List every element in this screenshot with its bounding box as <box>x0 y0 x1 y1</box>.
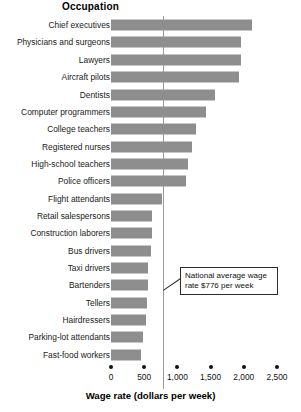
bar-row: Flight attendants <box>0 190 301 207</box>
bar <box>111 141 192 152</box>
category-label: Flight attendants <box>48 194 110 204</box>
category-label: Retail salespersons <box>37 211 110 221</box>
category-label: Bartenders <box>69 280 110 290</box>
bar <box>111 193 162 204</box>
category-label: Police officers <box>58 176 110 186</box>
category-label: High-school teachers <box>31 159 110 169</box>
bar <box>111 245 151 256</box>
category-label: Parking-lot attendants <box>29 332 110 342</box>
x-axis-tick-label: 0 <box>109 372 114 382</box>
category-label: Hairdressers <box>63 315 110 325</box>
bar-row: Construction laborers <box>0 225 301 242</box>
bar-row: Aircraft pilots <box>0 69 301 86</box>
category-label: Taxi drivers <box>68 263 110 273</box>
category-label: Computer programmers <box>21 107 110 117</box>
bar <box>111 280 148 291</box>
category-label: Aircraft pilots <box>62 72 110 82</box>
bar <box>111 158 188 169</box>
bar <box>111 89 215 100</box>
bar-row: Dentists <box>0 86 301 103</box>
bar-row: Bus drivers <box>0 242 301 259</box>
category-label: College teachers <box>47 124 110 134</box>
bar-row: Hairdressers <box>0 311 301 328</box>
category-label: Lawyers <box>79 55 110 65</box>
x-axis-tick-label: 500 <box>137 372 151 382</box>
bar-row: Fast-food workers <box>0 346 301 363</box>
x-axis-tick-dot <box>242 365 246 369</box>
x-axis-tick-label: 1,500 <box>200 372 221 382</box>
wage-rate-bar-chart: Occupation Chief executivesPhysicians an… <box>0 0 301 412</box>
callout-line-2: rate $776 per week <box>185 281 273 291</box>
bar-row: Registered nurses <box>0 138 301 155</box>
bar-row: Computer programmers <box>0 103 301 120</box>
bar-row: Chief executives <box>0 17 301 34</box>
category-label: Physicians and surgeons <box>17 37 110 47</box>
bar-row: Tellers <box>0 294 301 311</box>
bar <box>111 228 152 239</box>
x-axis-tick-dot <box>109 365 113 369</box>
category-label: Construction laborers <box>30 228 110 238</box>
category-label: Registered nurses <box>42 142 110 152</box>
category-label: Dentists <box>80 90 110 100</box>
bar <box>111 176 186 187</box>
category-label: Chief executives <box>49 20 110 30</box>
bar <box>111 20 252 31</box>
bar <box>111 54 241 65</box>
bar-row: College teachers <box>0 121 301 138</box>
bar-row: Physicians and surgeons <box>0 34 301 51</box>
bar <box>111 37 241 48</box>
bar <box>111 263 148 274</box>
x-axis-tick-label: 2,000 <box>233 372 254 382</box>
plot-area: Chief executivesPhysicians and surgeonsL… <box>0 0 301 412</box>
national-average-callout: National average wage rate $776 per week <box>180 267 278 295</box>
bar <box>111 72 239 83</box>
x-axis-tick-label: 2,500 <box>267 372 288 382</box>
bar <box>111 210 152 221</box>
bar <box>111 124 196 135</box>
bar <box>111 297 147 308</box>
bar-row: Parking-lot attendants <box>0 329 301 346</box>
bar <box>111 315 146 326</box>
bar-row: Police officers <box>0 173 301 190</box>
bar-row: High-school teachers <box>0 155 301 172</box>
bar-row: Lawyers <box>0 51 301 68</box>
bar <box>111 332 143 343</box>
x-axis-tick-dot <box>275 365 279 369</box>
category-label: Bus drivers <box>68 246 110 256</box>
x-axis-title: Wage rate (dollars per week) <box>0 390 301 401</box>
bar <box>111 349 141 360</box>
x-axis-tick-dot <box>175 365 179 369</box>
bar <box>111 106 206 117</box>
bar-row: Retail salespersons <box>0 207 301 224</box>
category-label: Tellers <box>86 298 110 308</box>
category-label: Fast-food workers <box>43 350 110 360</box>
callout-line-1: National average wage <box>185 271 273 281</box>
x-axis-tick-label: 1,000 <box>167 372 188 382</box>
x-axis-tick-dot <box>142 365 146 369</box>
x-axis-tick-dot <box>209 365 213 369</box>
